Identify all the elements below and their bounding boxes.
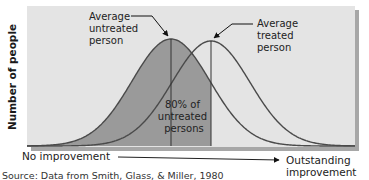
- normal-distribution-chart: Number of people Average untreated perso…: [0, 0, 369, 180]
- annotation-percent: 80% of untreated persons: [158, 99, 210, 134]
- source-note: Source: Data from Smith, Glass, & Miller…: [2, 170, 224, 180]
- x-axis-right-label: Outstanding improvement: [286, 154, 356, 178]
- x-axis-left-label: No improvement: [22, 150, 110, 162]
- y-axis-label: Number of people: [6, 24, 18, 130]
- x-axis-arrow: [118, 157, 279, 160]
